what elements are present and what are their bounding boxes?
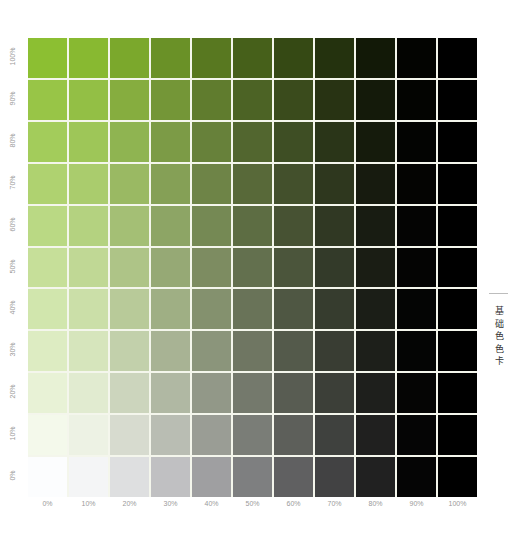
swatch-50%-0%	[28, 248, 67, 288]
y-label: 90%	[9, 83, 16, 113]
swatch-30%-60%	[274, 331, 313, 371]
swatch-60%-40%	[192, 206, 231, 246]
swatch-20%-90%	[397, 373, 436, 413]
y-label: 10%	[9, 419, 16, 449]
swatch-0%-30%	[151, 457, 190, 497]
swatch-30%-70%	[315, 331, 354, 371]
swatch-70%-30%	[151, 164, 190, 204]
swatch-10%-0%	[28, 415, 67, 455]
side-title: 基础色色卡	[494, 305, 504, 368]
swatch-0%-60%	[274, 457, 313, 497]
swatch-90%-40%	[192, 80, 231, 120]
x-label: 60%	[274, 500, 314, 507]
swatch-50%-90%	[397, 248, 436, 288]
y-label: 20%	[9, 377, 16, 407]
swatch-40%-100%	[438, 289, 477, 329]
swatch-0%-20%	[110, 457, 149, 497]
swatch-20%-40%	[192, 373, 231, 413]
swatch-70%-0%	[28, 164, 67, 204]
swatch-100%-90%	[397, 38, 436, 78]
y-label: 100%	[9, 41, 16, 71]
swatch-50%-10%	[69, 248, 108, 288]
side-divider	[489, 293, 508, 294]
swatch-30%-80%	[356, 331, 395, 371]
swatch-20%-20%	[110, 373, 149, 413]
swatch-100%-0%	[28, 38, 67, 78]
swatch-70%-20%	[110, 164, 149, 204]
swatch-60%-0%	[28, 206, 67, 246]
swatch-40%-50%	[233, 289, 272, 329]
y-label: 30%	[9, 335, 16, 365]
x-label: 70%	[315, 500, 355, 507]
swatch-10%-30%	[151, 415, 190, 455]
swatch-80%-40%	[192, 122, 231, 162]
swatch-0%-100%	[438, 457, 477, 497]
swatch-100%-40%	[192, 38, 231, 78]
swatch-10%-90%	[397, 415, 436, 455]
swatch-20%-100%	[438, 373, 477, 413]
swatch-20%-10%	[69, 373, 108, 413]
swatch-70%-40%	[192, 164, 231, 204]
swatch-80%-0%	[28, 122, 67, 162]
swatch-20%-60%	[274, 373, 313, 413]
swatch-30%-50%	[233, 331, 272, 371]
swatch-60%-10%	[69, 206, 108, 246]
swatch-0%-10%	[69, 457, 108, 497]
swatch-10%-50%	[233, 415, 272, 455]
swatch-40%-60%	[274, 289, 313, 329]
x-label: 80%	[356, 500, 396, 507]
swatch-100%-50%	[233, 38, 272, 78]
x-label: 0%	[28, 500, 68, 507]
swatch-50%-100%	[438, 248, 477, 288]
y-label: 60%	[9, 209, 16, 239]
swatch-100%-10%	[69, 38, 108, 78]
x-label: 90%	[397, 500, 437, 507]
x-label: 30%	[151, 500, 191, 507]
swatch-70%-90%	[397, 164, 436, 204]
y-label: 50%	[9, 251, 16, 281]
swatch-20%-0%	[28, 373, 67, 413]
swatch-10%-10%	[69, 415, 108, 455]
y-label: 0%	[9, 461, 16, 491]
x-label: 20%	[110, 500, 150, 507]
swatch-100%-20%	[110, 38, 149, 78]
y-label: 80%	[9, 125, 16, 155]
swatch-60%-100%	[438, 206, 477, 246]
swatch-30%-30%	[151, 331, 190, 371]
swatch-30%-90%	[397, 331, 436, 371]
x-label: 100%	[438, 500, 478, 507]
swatch-10%-70%	[315, 415, 354, 455]
swatch-40%-0%	[28, 289, 67, 329]
swatch-40%-20%	[110, 289, 149, 329]
swatch-90%-90%	[397, 80, 436, 120]
swatch-0%-80%	[356, 457, 395, 497]
swatch-100%-60%	[274, 38, 313, 78]
swatch-30%-10%	[69, 331, 108, 371]
swatch-50%-40%	[192, 248, 231, 288]
swatch-100%-30%	[151, 38, 190, 78]
swatch-60%-80%	[356, 206, 395, 246]
swatch-40%-70%	[315, 289, 354, 329]
swatch-60%-70%	[315, 206, 354, 246]
y-label: 70%	[9, 167, 16, 197]
swatch-60%-30%	[151, 206, 190, 246]
swatch-90%-50%	[233, 80, 272, 120]
x-label: 50%	[233, 500, 273, 507]
swatch-10%-80%	[356, 415, 395, 455]
swatch-30%-40%	[192, 331, 231, 371]
swatch-30%-20%	[110, 331, 149, 371]
swatch-20%-30%	[151, 373, 190, 413]
swatch-40%-30%	[151, 289, 190, 329]
swatch-80%-30%	[151, 122, 190, 162]
swatch-50%-30%	[151, 248, 190, 288]
swatch-90%-20%	[110, 80, 149, 120]
swatch-70%-60%	[274, 164, 313, 204]
swatch-10%-100%	[438, 415, 477, 455]
swatch-10%-40%	[192, 415, 231, 455]
swatch-0%-40%	[192, 457, 231, 497]
color-swatch-grid	[28, 38, 477, 497]
swatch-60%-60%	[274, 206, 313, 246]
swatch-80%-60%	[274, 122, 313, 162]
swatch-10%-20%	[110, 415, 149, 455]
swatch-50%-70%	[315, 248, 354, 288]
